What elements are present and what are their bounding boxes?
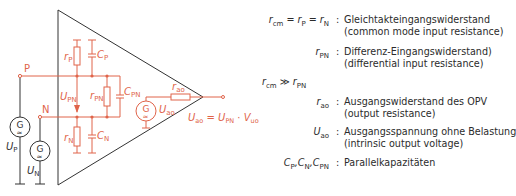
terminal-p: [18, 74, 21, 77]
legend-symbol: Uao: [313, 126, 329, 140]
legend-colon: :: [336, 126, 339, 137]
legend-colon: :: [336, 157, 339, 168]
cp-label: CP: [97, 49, 108, 62]
legend-desc: Parallelkapazitäten: [344, 157, 435, 169]
uao-source-label: Uao: [159, 104, 175, 117]
ac-symbol-uao: ≈: [143, 113, 149, 121]
cpn-label: CPN: [124, 86, 140, 99]
legend-symbol: rao: [316, 96, 329, 110]
legend-symbol: rcm = rP = rN: [269, 14, 329, 28]
terminal-n: [38, 115, 41, 118]
terminal-n-label: N: [42, 104, 49, 115]
internal-network: [20, 40, 225, 153]
rp-label: rP: [64, 51, 72, 64]
legend-desc: Differenz-Eingangswiderstand)(differenti…: [344, 46, 492, 70]
cn-label: CN: [97, 130, 109, 143]
legend-colon: :: [336, 46, 339, 57]
legend-symbol: CP,CN,CPN: [284, 157, 329, 171]
legend-symbol: rPN: [316, 46, 329, 60]
rao-label: rao: [172, 81, 185, 94]
un-label: UN: [27, 165, 40, 178]
legend-colon: :: [336, 96, 339, 107]
output-equation: Uao = UPN · Vuo: [188, 112, 259, 125]
legend-relation-text: rcm ≫ rPN: [262, 76, 306, 90]
ac-symbol-up: ≈: [17, 129, 23, 137]
legend-colon: :: [336, 14, 339, 25]
upn-arrow-icon: [74, 105, 80, 113]
upn-label: UPN: [60, 91, 77, 104]
up-label: UP: [6, 141, 18, 154]
legend-desc: Ausgangsspannung ohne Belastung(intrinsi…: [344, 126, 516, 150]
legend-desc: Ausgangswiderstand des OPV(output resist…: [344, 96, 487, 120]
legend-desc: Gleichtakteingangswiderstand(common mode…: [344, 14, 504, 38]
terminal-p-label: P: [24, 63, 30, 74]
rn-label: rN: [64, 132, 73, 145]
ac-symbol-un: ≈: [37, 153, 43, 161]
rpn-label: rPN: [90, 90, 104, 103]
